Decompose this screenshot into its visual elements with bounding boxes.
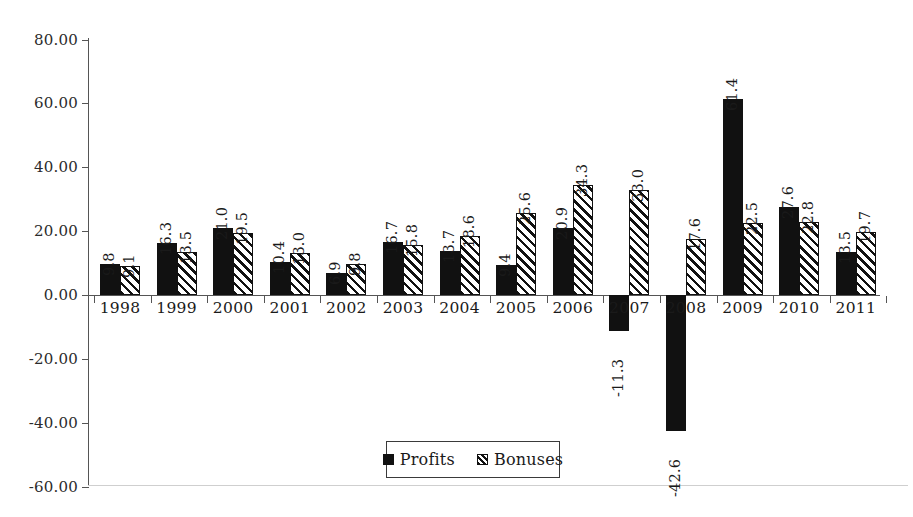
x-axis-label-2002: 2002 (323, 299, 369, 317)
bar-value-label: 13.7 (441, 230, 457, 263)
bar-value-label: 21.0 (214, 207, 230, 240)
x-axis-label-2011: 2011 (833, 299, 879, 317)
x-axis-label-2003: 2003 (380, 299, 426, 317)
y-tick-mark (82, 359, 89, 360)
bar-profits-2009 (723, 99, 743, 295)
plot-area: 80.0060.0040.0020.000.00-20.00-40.00-60.… (0, 0, 913, 517)
x-axis-label-2005: 2005 (493, 299, 539, 317)
bar-value-label: 25.6 (517, 192, 533, 225)
x-tick-mark (830, 296, 831, 303)
x-axis-label-1998: 1998 (97, 299, 143, 317)
x-tick-mark (320, 296, 321, 303)
y-tick-mark (82, 103, 89, 104)
bar-value-label: 19.5 (234, 212, 250, 245)
chart-legend: Profits Bonuses (386, 441, 560, 478)
y-tick-label: 0.00 (4, 286, 78, 304)
bar-value-label: 61.4 (724, 78, 740, 111)
y-tick-mark (82, 487, 89, 488)
bar-value-label: 33.0 (630, 169, 646, 202)
bar-value-label: -42.6 (667, 459, 683, 497)
bar-value-label: 9.8 (101, 252, 117, 276)
bar-value-label: 22.8 (800, 201, 816, 234)
x-tick-mark (490, 296, 491, 303)
legend-swatch-profits-icon (383, 454, 394, 465)
bar-value-label: 9.8 (347, 252, 363, 276)
chart-screenshot: 80.0060.0040.0020.000.00-20.00-40.00-60.… (0, 0, 913, 517)
x-axis-label-2001: 2001 (267, 299, 313, 317)
bar-value-label: -11.3 (610, 359, 626, 397)
x-axis-label-2009: 2009 (720, 299, 766, 317)
x-tick-mark (94, 296, 95, 303)
x-tick-mark (660, 296, 661, 303)
y-tick-label: -20.00 (4, 350, 78, 368)
x-tick-mark (717, 296, 718, 303)
x-axis-label-2000: 2000 (210, 299, 256, 317)
bar-bonuses-2006 (573, 185, 593, 295)
legend-entry-profits: Profits (383, 450, 455, 469)
x-tick-mark (547, 296, 548, 303)
bar-value-label: 18.6 (461, 215, 477, 248)
y-tick-label: -40.00 (4, 414, 78, 432)
y-tick-mark (82, 40, 89, 41)
x-tick-mark (886, 296, 887, 303)
legend-label-bonuses: Bonuses (494, 450, 563, 469)
bar-value-label: 17.6 (687, 218, 703, 251)
bottom-rule (88, 485, 908, 486)
legend-entry-bonuses: Bonuses (477, 450, 563, 469)
x-tick-mark (151, 296, 152, 303)
bar-value-label: 16.3 (158, 222, 174, 255)
y-tick-label: 40.00 (4, 158, 78, 176)
x-tick-mark (377, 296, 378, 303)
bar-value-label: 22.5 (744, 202, 760, 235)
x-axis-label-2006: 2006 (550, 299, 596, 317)
x-tick-mark (603, 296, 604, 303)
bar-value-label: 10.4 (271, 241, 287, 274)
x-tick-mark (264, 296, 265, 303)
y-tick-mark (82, 231, 89, 232)
y-tick-label: 20.00 (4, 222, 78, 240)
legend-swatch-bonuses-icon (477, 454, 488, 465)
y-tick-label: 60.00 (4, 94, 78, 112)
x-axis-label-2008: 2008 (663, 299, 709, 317)
bar-bonuses-2005 (516, 213, 536, 295)
y-axis-line (88, 38, 89, 486)
x-tick-mark (434, 296, 435, 303)
x-axis-label-2007: 2007 (606, 299, 652, 317)
bar-value-label: 9.4 (497, 253, 513, 277)
bar-value-label: 13.5 (178, 231, 194, 264)
bar-value-label: 16.7 (384, 221, 400, 254)
bar-value-label: 20.9 (554, 207, 570, 240)
bar-value-label: 13.5 (837, 231, 853, 264)
y-tick-mark (82, 423, 89, 424)
x-tick-mark (207, 296, 208, 303)
y-tick-mark (82, 295, 89, 296)
x-axis-label-2004: 2004 (437, 299, 483, 317)
bar-value-label: 9.1 (121, 254, 137, 278)
x-axis-label-1999: 1999 (154, 299, 200, 317)
bar-value-label: 15.8 (404, 223, 420, 256)
bar-value-label: 19.7 (857, 211, 873, 244)
bar-profits-2010 (779, 207, 799, 295)
bar-value-label: 6.9 (327, 261, 343, 285)
x-axis-label-2010: 2010 (776, 299, 822, 317)
legend-label-profits: Profits (400, 450, 455, 469)
bar-value-label: 27.6 (780, 186, 796, 219)
x-tick-mark (773, 296, 774, 303)
bar-value-label: 34.3 (574, 164, 590, 197)
bar-bonuses-2007 (629, 190, 649, 295)
y-tick-label: 80.00 (4, 31, 78, 49)
y-tick-mark (82, 167, 89, 168)
y-tick-label: -60.00 (4, 478, 78, 496)
bar-value-label: 13.0 (291, 232, 307, 265)
